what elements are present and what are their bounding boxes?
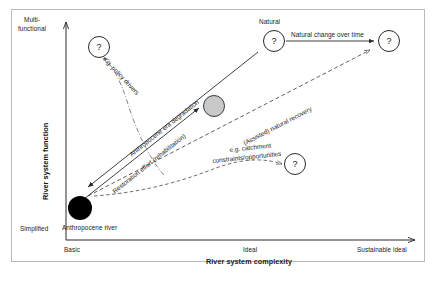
x-axis-title: River system complexity [206, 258, 292, 267]
y-axis-title: River system function [41, 123, 50, 200]
y-axis-top-label-line1: Multi- [24, 16, 40, 24]
x-tick-sustainable-ideal: Sustainable ideal [357, 246, 407, 254]
node-future-natural: ? [378, 30, 400, 52]
x-tick-basic: Basic [64, 246, 80, 254]
label-natural-state: Natural [259, 18, 280, 26]
label-natural-change-over-time: Natural change over time [291, 31, 364, 39]
label-anthropocene-river: Anthropocene river [62, 224, 117, 232]
node-natural-state: ? [263, 30, 285, 52]
y-axis-bottom-label: Simplified [20, 225, 48, 233]
node-anthropocene-river [68, 196, 92, 220]
diagram-canvas [0, 0, 440, 288]
arrow-anthropocene-era-degradation [84, 108, 199, 199]
node-catchment-outcome: ? [284, 153, 306, 175]
node-degraded-state [203, 95, 225, 117]
arrow-catchment-constraints [94, 160, 282, 196]
y-axis-top-label-line2: functional [18, 25, 46, 33]
x-tick-ideal: Ideal [243, 246, 257, 254]
figure-container: ? ? ? ? Multi- functional Simplified Riv… [0, 0, 440, 288]
